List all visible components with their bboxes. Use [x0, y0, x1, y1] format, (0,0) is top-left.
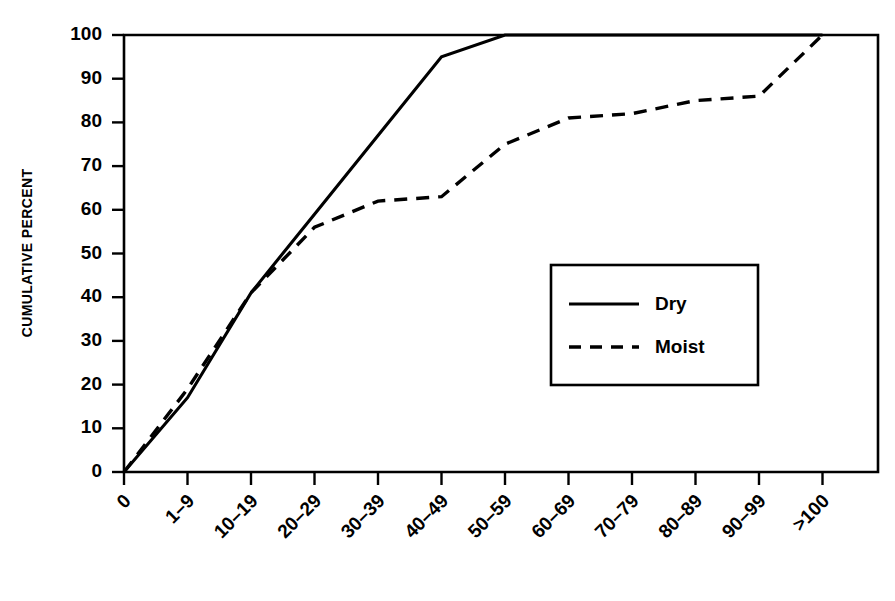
- x-tick-label: 1–9: [161, 490, 198, 527]
- y-tick-label: 0: [91, 460, 102, 481]
- legend-label-moist: Moist: [655, 336, 705, 357]
- chart-container: CUMULATIVE PERCENT 010203040506070809010…: [0, 0, 895, 601]
- x-tick-label: >100: [788, 490, 833, 535]
- axis-frame: [124, 35, 878, 472]
- y-tick-label: 100: [70, 23, 102, 44]
- y-tick-label: 70: [81, 154, 102, 175]
- x-tick-label: 30–39: [337, 490, 389, 542]
- y-axis-title: CUMULATIVE PERCENT: [19, 169, 35, 338]
- series-group: [124, 35, 823, 472]
- y-tick-label: 80: [81, 110, 102, 131]
- x-tick-label: 10–19: [210, 490, 262, 542]
- x-tick-label: 40–49: [400, 490, 452, 542]
- x-axis-tick-marks: [124, 472, 823, 485]
- x-tick-label: 80–89: [654, 490, 706, 542]
- x-tick-label: 50–59: [464, 490, 516, 542]
- legend: Dry Moist: [551, 265, 758, 385]
- cumulative-percent-chart: CUMULATIVE PERCENT 010203040506070809010…: [0, 0, 895, 601]
- plot-frame: [124, 35, 878, 472]
- x-tick-label: 70–79: [591, 490, 643, 542]
- x-tick-label: 60–69: [527, 490, 579, 542]
- series-line-dry: [124, 35, 823, 472]
- x-tick-label: 90–99: [718, 490, 770, 542]
- y-axis-tick-marks: [112, 35, 124, 472]
- x-tick-label: 0: [112, 490, 134, 512]
- y-axis-tick-labels: 0102030405060708090100: [70, 23, 102, 481]
- y-tick-label: 60: [81, 198, 102, 219]
- y-tick-label: 50: [81, 242, 102, 263]
- y-tick-label: 90: [81, 67, 102, 88]
- x-axis-tick-labels: 01–910–1920–2930–3940–4950–5960–6970–798…: [112, 490, 833, 542]
- y-tick-label: 20: [81, 373, 102, 394]
- y-axis-title-group: CUMULATIVE PERCENT: [19, 169, 35, 338]
- y-tick-label: 40: [81, 285, 102, 306]
- legend-label-dry: Dry: [655, 293, 687, 314]
- legend-box: [551, 265, 758, 385]
- y-tick-label: 30: [81, 329, 102, 350]
- x-tick-label: 20–29: [273, 490, 325, 542]
- y-tick-label: 10: [81, 416, 102, 437]
- series-line-moist: [124, 35, 823, 472]
